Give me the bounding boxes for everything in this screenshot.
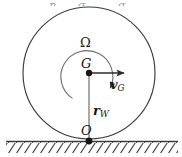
velocity-vector-subscript: G <box>118 83 125 93</box>
ground-hatching <box>6 142 178 153</box>
radius-vector-symbol: r <box>93 103 100 118</box>
radius-vector-subscript: W <box>100 109 109 119</box>
velocity-vector-label: vG <box>110 78 125 93</box>
physics-diagram-rolling-wheel: η σ σ Ω G <box>0 0 182 157</box>
velocity-vector-symbol: v <box>110 77 118 92</box>
contact-point <box>86 138 93 145</box>
radius-vector-label: rW <box>93 104 109 119</box>
center-of-mass-label: G <box>81 57 91 70</box>
angular-velocity-label: Ω <box>80 36 91 49</box>
contact-point-label: O <box>81 124 92 137</box>
